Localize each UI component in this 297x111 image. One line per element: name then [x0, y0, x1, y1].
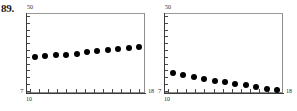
data-point: [74, 51, 80, 57]
x-axis-tick: [232, 89, 233, 93]
x-axis-tick: [39, 89, 40, 93]
data-point: [115, 46, 121, 52]
y-axis-tick: [27, 43, 30, 44]
data-point: [191, 74, 197, 80]
y-axis-tick: [165, 36, 168, 37]
data-point: [264, 86, 270, 92]
x-axis-tick: [204, 89, 205, 93]
y-axis-min-label-left: 7: [20, 88, 24, 95]
x-axis-right: [164, 93, 284, 94]
data-point: [63, 52, 69, 58]
x-axis-max-label-right: 18: [286, 88, 292, 95]
y-axis-tick: [27, 77, 30, 78]
y-axis-tick: [27, 36, 30, 37]
y-axis-tick: [27, 70, 30, 71]
data-point: [32, 54, 38, 60]
y-axis-tick: [165, 84, 168, 85]
x-axis-tick: [241, 89, 242, 93]
x-axis-min-label-left: 10: [26, 96, 32, 103]
y-axis-tick: [165, 57, 168, 58]
y-axis-right: [164, 13, 165, 94]
x-axis-tick: [76, 89, 77, 93]
y-axis-tick: [27, 30, 30, 31]
data-point: [126, 45, 132, 51]
x-axis-tick: [195, 89, 196, 93]
x-axis-tick: [139, 89, 140, 93]
x-axis-tick: [177, 89, 178, 93]
y-axis-tick: [27, 64, 30, 65]
data-point: [136, 44, 142, 50]
x-axis-tick: [168, 89, 169, 93]
y-axis-tick: [27, 16, 30, 17]
y-axis-tick: [165, 30, 168, 31]
x-axis-tick: [85, 89, 86, 93]
scatter-plot-left: 50 7 10 18: [15, 0, 160, 111]
y-axis-min-label-right: 7: [158, 88, 162, 95]
x-axis-tick: [112, 89, 113, 93]
x-axis-tick: [103, 89, 104, 93]
data-point: [212, 78, 218, 84]
y-axis-tick: [165, 50, 168, 51]
y-axis-tick: [165, 64, 168, 65]
y-axis-tick: [27, 50, 30, 51]
x-axis-tick: [259, 89, 260, 93]
x-axis-tick: [130, 89, 131, 93]
x-axis-left: [26, 93, 146, 94]
data-point: [201, 76, 207, 82]
x-axis-tick: [214, 89, 215, 93]
y-axis-max-label-left: 50: [27, 4, 33, 11]
x-axis-tick: [48, 89, 49, 93]
y-axis-max-label-right: 50: [165, 4, 171, 11]
y-axis-tick: [27, 84, 30, 85]
y-axis-tick: [165, 77, 168, 78]
y-axis-tick: [27, 23, 30, 24]
x-axis-tick: [186, 89, 187, 93]
x-axis-tick: [250, 89, 251, 93]
data-point: [105, 47, 111, 53]
x-axis-tick: [30, 89, 31, 93]
x-axis-tick: [66, 89, 67, 93]
scatter-plot-right: 50 7 10 18: [153, 0, 297, 111]
x-axis-tick: [57, 89, 58, 93]
x-axis-tick: [223, 89, 224, 93]
y-axis-tick: [165, 16, 168, 17]
y-axis-tick: [27, 57, 30, 58]
y-axis-tick: [165, 70, 168, 71]
y-axis-tick: [165, 43, 168, 44]
x-axis-tick: [94, 89, 95, 93]
y-axis-left: [26, 13, 27, 94]
x-axis-tick: [121, 89, 122, 93]
x-axis-min-label-right: 10: [164, 96, 170, 103]
y-axis-tick: [165, 23, 168, 24]
figure-89: 89. 50 7 10 18 50 7 10 18: [0, 0, 297, 111]
data-point: [243, 82, 249, 88]
problem-number: 89.: [1, 2, 14, 14]
